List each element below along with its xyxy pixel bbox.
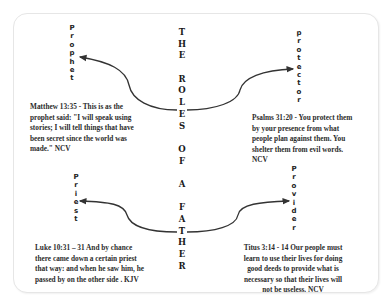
title-letter: T	[179, 28, 185, 40]
role-protector-label: p r o t e c t o r	[295, 30, 303, 106]
role-letter: r	[292, 225, 295, 233]
verse-psalms: Psalms 31:20 - You protect them by your …	[252, 113, 354, 166]
role-letter: t	[74, 216, 77, 224]
role-letter: t	[70, 75, 73, 83]
role-prophet-label: P r o p h e t	[68, 25, 76, 84]
verse-matthew: Matthew 13:35 - This is as the prophet s…	[30, 102, 136, 155]
verse-titus: Titus 3:14 - 14 Our people must learn to…	[238, 243, 348, 296]
role-provider-label: P r o v i d e r	[290, 166, 298, 233]
title-letter: F	[179, 157, 185, 169]
role-priest-label: P r i e s t	[72, 174, 80, 224]
title-letter: S	[179, 122, 185, 134]
title-the-roles-of-a-father: T H E R O L E S O F A F A T H E R	[176, 28, 188, 273]
title-letter: A	[179, 215, 186, 227]
title-letter: R	[178, 262, 185, 274]
title-letter: A	[179, 180, 186, 192]
verse-luke: Luke 10:31 – 31 And by chance there came…	[35, 243, 147, 285]
title-letter: E	[179, 250, 185, 262]
title-letter: E	[179, 110, 185, 122]
role-letter: r	[297, 97, 300, 105]
title-letter: E	[179, 51, 185, 63]
title-letter: O	[178, 145, 185, 157]
